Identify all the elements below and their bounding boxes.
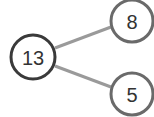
connector-whole-to-part-2 (55, 66, 111, 87)
part-1-value: 8 (126, 11, 137, 33)
number-bond-diagram: 13 8 5 (0, 0, 154, 117)
whole-value: 13 (22, 47, 44, 69)
part-node-2: 5 (111, 73, 153, 115)
whole-node: 13 (11, 35, 55, 79)
part-2-value: 5 (126, 84, 137, 106)
connector-whole-to-part-1 (55, 27, 111, 48)
part-node-1: 8 (111, 0, 153, 42)
